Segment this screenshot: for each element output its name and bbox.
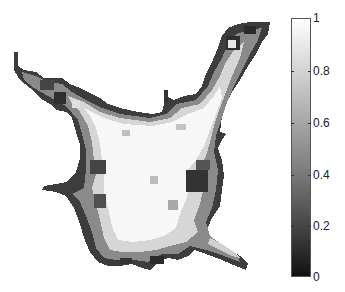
colorbar-tick xyxy=(308,123,311,124)
colorbar-tick xyxy=(308,175,311,176)
colorbar-label-0.4: 0.4 xyxy=(313,169,330,181)
cell-shape xyxy=(14,22,270,270)
colorbar-label-1: 1 xyxy=(313,12,320,24)
colorbar-tick xyxy=(291,71,294,72)
colorbar-tick xyxy=(308,226,311,227)
colorbar-tick xyxy=(291,123,294,124)
colorbar-tick xyxy=(291,226,294,227)
colorbar-label-0.8: 0.8 xyxy=(313,65,330,77)
colorbar-tick xyxy=(291,175,294,176)
colorbar-tick xyxy=(308,71,311,72)
heatmap-plot xyxy=(0,0,280,292)
colorbar xyxy=(291,18,311,277)
colorbar-label-0.6: 0.6 xyxy=(313,117,330,129)
colorbar-label-0: 0 xyxy=(313,271,320,283)
colorbar-label-0.2: 0.2 xyxy=(313,220,330,232)
